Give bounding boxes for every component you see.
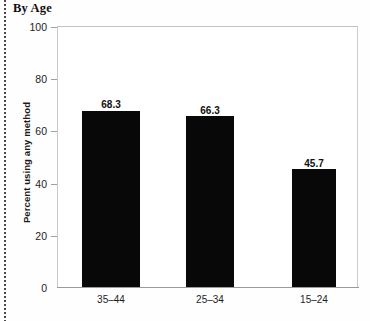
y-axis-title: Percent using any method (21, 83, 32, 243)
bar-35-44 (82, 111, 140, 287)
category-label-25-34: 25–34 (185, 294, 235, 305)
chart-page: By Age 100 80 60 40 20 0 Percent using a… (0, 0, 370, 321)
bar-value-25-34: 66.3 (185, 105, 235, 116)
x-axis-baseline (57, 287, 359, 288)
page-title: By Age (13, 1, 52, 16)
y-tick-label-0: 0 (3, 282, 47, 294)
page-edge-dotted-rule (4, 0, 6, 321)
bar-value-35-44: 68.3 (81, 99, 141, 110)
bar-value-15-24: 45.7 (291, 158, 337, 169)
category-label-35-44: 35–44 (81, 294, 141, 305)
plot-area (57, 26, 358, 288)
category-label-15-24: 15–24 (291, 294, 337, 305)
y-tick-label-100: 100 (3, 21, 47, 33)
bar-15-24 (292, 169, 336, 287)
bar-25-34 (186, 116, 234, 287)
